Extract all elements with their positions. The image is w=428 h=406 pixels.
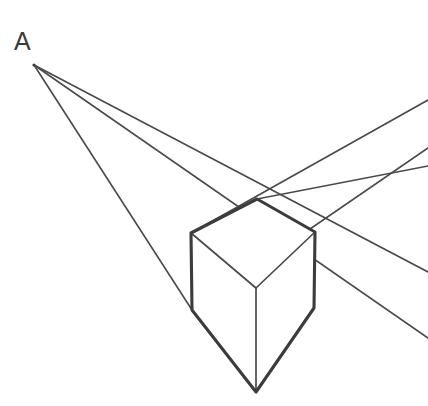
perspective-construction-drawing: A [0, 0, 428, 406]
perspective-diagram-canvas: A [0, 0, 428, 406]
vanishing-point-dot [32, 63, 35, 66]
vanishing-point-a-marker [32, 63, 35, 66]
drawing-background [0, 0, 428, 406]
vanishing-point-label-a: A [14, 27, 31, 55]
